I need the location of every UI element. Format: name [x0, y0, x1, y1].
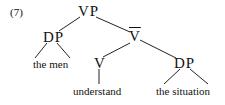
node-v: V: [94, 56, 106, 71]
node-dp-object: DP: [174, 56, 195, 71]
leaf-understand: understand: [73, 86, 121, 97]
node-v-bar: V: [129, 29, 141, 44]
node-vp: VP: [78, 4, 99, 19]
syntax-tree-figure: (7) VP DP V the men V DP understand the …: [0, 0, 225, 105]
leaf-the-men: the men: [33, 59, 68, 70]
leaf-the-situation: the situation: [156, 86, 210, 97]
example-number: (7): [10, 7, 23, 18]
node-dp-subject: DP: [43, 30, 64, 45]
